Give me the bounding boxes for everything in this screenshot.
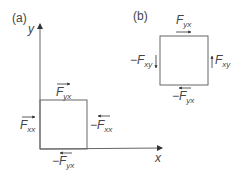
x-axis-label: x [154,151,162,165]
svg-text:−Fyx: −Fyx [172,89,195,105]
force-right-a: −Fxx [90,116,113,134]
force-left-b: −Fxy [130,53,156,69]
force-bottom-a: −Fyx [52,153,75,170]
element-square-a [40,100,87,149]
force-top-a: Fyx [56,84,72,101]
svg-text:Fyx: Fyx [176,13,192,29]
svg-text:Fxx: Fxx [20,118,36,134]
svg-text:Fxy: Fxy [215,53,231,69]
y-axis-label: y [27,22,35,36]
panel-b: (b) Fyx −Fxy Fxy −Fyx [130,9,231,105]
svg-text:−Fyx: −Fyx [52,154,75,170]
element-square-b [160,36,208,85]
force-left-a: Fxx [20,117,36,134]
panel-a: (a) y x Fyx Fxx −Fxx −Fyx [12,11,162,170]
force-right-b: Fxy [212,53,231,69]
force-bottom-b: −Fyx [172,88,195,105]
svg-text:−Fxx: −Fxx [90,118,113,134]
svg-text:Fyx: Fyx [56,85,72,101]
panel-a-label: (a) [12,11,27,25]
shear-stress-diagram: (a) y x Fyx Fxx −Fxx −Fyx (b) [0,0,242,174]
panel-b-label: (b) [133,9,148,23]
svg-text:−Fxy: −Fxy [130,53,153,69]
force-top-b: Fyx [176,13,192,32]
